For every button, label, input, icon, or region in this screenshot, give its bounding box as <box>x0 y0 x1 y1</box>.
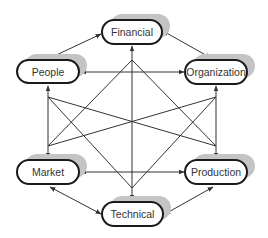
node-market: Market <box>17 154 87 184</box>
edge-production-technical <box>165 187 213 214</box>
edge-market-technical <box>50 187 101 214</box>
node-production: Production <box>185 154 255 184</box>
relationship-diagram: Financial People Organization Market Pro… <box>0 0 268 238</box>
node-organization: Organization <box>185 54 255 84</box>
node-label-production: Production <box>191 166 241 178</box>
node-label-technical: Technical <box>111 208 155 220</box>
node-label-people: People <box>32 66 65 78</box>
edge-financial-organization <box>163 31 211 58</box>
node-technical: Technical <box>102 196 171 226</box>
node-label-organization: Organization <box>186 66 246 78</box>
node-people: People <box>17 54 87 83</box>
node-financial: Financial <box>102 14 170 44</box>
node-label-financial: Financial <box>111 26 153 38</box>
node-label-market: Market <box>32 166 64 178</box>
